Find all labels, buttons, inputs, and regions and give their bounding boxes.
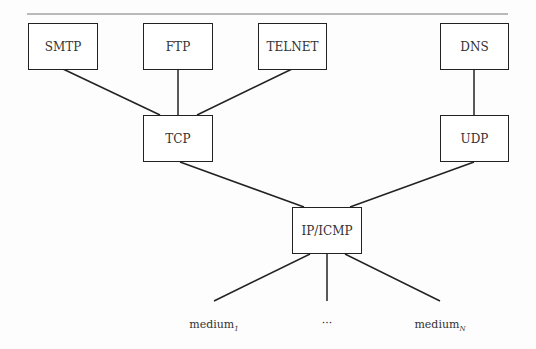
- edge-telnet-tcp: [197, 69, 292, 115]
- node-smtp: SMTP: [28, 23, 98, 70]
- node-ftp: FTP: [143, 23, 213, 70]
- node-label: TCP: [165, 132, 190, 146]
- edge-smtp-tcp: [63, 69, 160, 115]
- node-udp: UDP: [440, 115, 509, 162]
- medium-first-label: medium1: [189, 318, 238, 333]
- protocol-stack-diagram: SMTP FTP TELNET DNS TCP UDP IP/ICMP medi…: [0, 0, 536, 349]
- node-label: FTP: [166, 40, 190, 54]
- node-tcp: TCP: [143, 115, 213, 162]
- node-label: UDP: [461, 132, 489, 146]
- node-label: TELNET: [267, 40, 319, 54]
- medium-last-label: mediumN: [414, 318, 465, 333]
- edge-ip-medium1: [214, 254, 310, 301]
- node-ip-icmp: IP/ICMP: [292, 207, 362, 254]
- medium-ellipsis: ···: [322, 317, 333, 330]
- node-label: SMTP: [45, 40, 82, 54]
- node-label: IP/ICMP: [301, 224, 352, 238]
- edge-ip-mediumN: [345, 254, 440, 301]
- edge-tcp-ip: [180, 162, 304, 207]
- node-label: DNS: [460, 40, 488, 54]
- node-telnet: TELNET: [258, 23, 327, 70]
- node-dns: DNS: [440, 23, 509, 70]
- edge-udp-ip: [350, 162, 474, 207]
